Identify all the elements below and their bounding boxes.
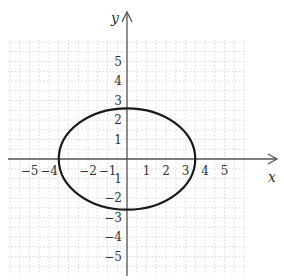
x-tick-label: −5 <box>21 164 39 178</box>
y-tick-label: 3 <box>114 94 122 108</box>
x-tick-label: 4 <box>201 164 209 178</box>
y-axis-label: y <box>110 10 120 26</box>
x-tick-label: 5 <box>221 164 229 178</box>
ellipse-plot: −5−4−2−112345543211−2−3−4−5 x y <box>0 0 284 280</box>
x-tick-label: 1 <box>143 164 151 178</box>
x-tick-label: 2 <box>162 164 170 178</box>
y-tick-label: 4 <box>114 74 122 88</box>
x-tick-label: −4 <box>40 164 58 178</box>
x-tick-label: 3 <box>182 164 190 178</box>
y-tick-label: −2 <box>104 191 122 205</box>
x-axis-label: x <box>268 169 276 185</box>
y-tick-label: 2 <box>114 113 122 127</box>
y-tick-label: 5 <box>114 55 122 69</box>
y-tick-label: −5 <box>104 250 122 264</box>
y-tick-label: 1 <box>114 133 122 147</box>
x-tick-label: −2 <box>79 164 97 178</box>
y-tick-label: 1 <box>114 172 122 186</box>
y-tick-label: −4 <box>104 230 122 244</box>
y-tick-label: −3 <box>104 211 122 225</box>
